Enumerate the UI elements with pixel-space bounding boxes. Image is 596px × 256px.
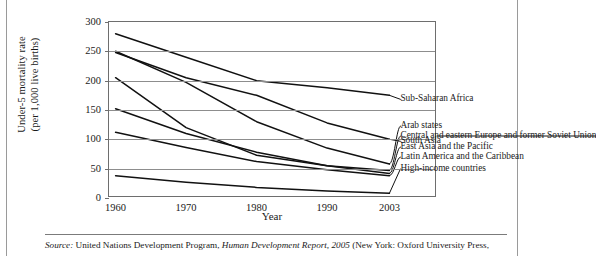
y-tick-mark xyxy=(105,198,109,199)
series-label: Sub-Saharan Africa xyxy=(400,93,473,103)
x-axis-label: Year xyxy=(108,210,436,222)
y-axis-label-line2: (per 1,000 live births) xyxy=(28,5,41,165)
series-label: Central and eastern Europe and former So… xyxy=(400,130,596,140)
y-tick-label: 250 xyxy=(61,46,101,56)
y-tick-mark xyxy=(105,110,109,111)
chart-area: Under-5 mortality rate (per 1,000 live b… xyxy=(0,0,524,228)
y-tick-label: 150 xyxy=(61,105,101,115)
gridline xyxy=(109,51,435,52)
series-line xyxy=(116,78,390,171)
series-label: High-income countries xyxy=(400,163,485,173)
gridline xyxy=(109,169,435,170)
y-axis-label-line1: Under-5 mortality rate xyxy=(16,36,27,132)
source-prefix: Source: xyxy=(45,240,73,250)
y-tick-label: 300 xyxy=(61,17,101,27)
series-label: East Asia and the Pacific xyxy=(400,141,492,151)
plot-frame: 05010015020025030019601970198019902003 xyxy=(108,21,436,197)
y-tick-label: 200 xyxy=(61,76,101,86)
source-divider xyxy=(45,234,507,235)
source-report-title: Human Development Report, 2005 xyxy=(222,240,350,250)
series-line xyxy=(116,176,390,194)
gridline xyxy=(109,110,435,111)
y-tick-label: 100 xyxy=(61,134,101,144)
y-tick-mark xyxy=(105,22,109,23)
series-leader-line xyxy=(389,95,400,99)
source-caption: Source: United Nations Development Progr… xyxy=(45,240,515,251)
series-line xyxy=(116,53,390,140)
gridline xyxy=(109,139,435,140)
source-text-b: (New York: Oxford University Press, xyxy=(350,240,489,250)
series-label: Latin America and the Caribbean xyxy=(400,151,523,161)
y-tick-mark xyxy=(105,169,109,170)
y-tick-mark xyxy=(105,139,109,140)
y-tick-mark xyxy=(105,81,109,82)
y-axis-label: Under-5 mortality rate (per 1,000 live b… xyxy=(16,5,41,165)
gridline xyxy=(109,81,435,82)
series-label: Arab states xyxy=(400,120,442,130)
y-tick-mark xyxy=(105,51,109,52)
y-tick-label: 50 xyxy=(61,164,101,174)
series-line xyxy=(116,34,390,96)
source-text-a: United Nations Development Program, xyxy=(73,240,222,250)
